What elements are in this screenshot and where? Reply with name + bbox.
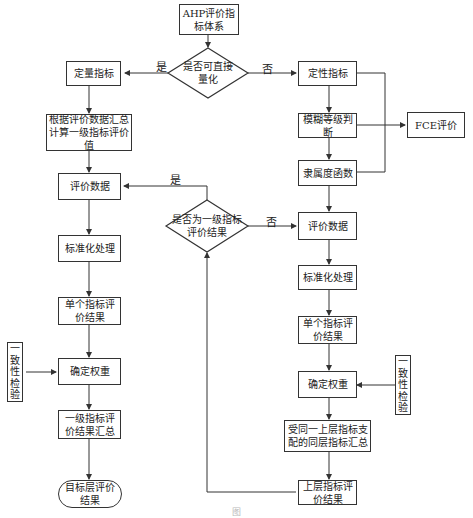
qualitative-node: 定性指标 (298, 61, 357, 86)
right-single-result-node: 单个指标评价结果 (298, 316, 357, 344)
ahp-system-node: AHP评价指标体系 (179, 4, 239, 35)
right-weight-node: 确定权重 (298, 371, 357, 398)
calc-first-level-node: 根据评价数据汇总计算一级指标评价值 (46, 114, 132, 151)
quantifiable-no-label: 否 (262, 60, 273, 76)
right-consistency-node: 一致性检验 (395, 355, 411, 415)
quantitative-node: 定量指标 (66, 61, 121, 86)
left-single-result-node: 单个指标评价结果 (58, 297, 121, 325)
membership-node: 隶属度函数 (298, 160, 357, 186)
upper-result-node: 上层指标评价结果 (298, 480, 357, 505)
fuzzy-grade-node: 模糊等级判断 (298, 113, 357, 138)
first-level-summary-node: 一级指标评价结果汇总 (58, 410, 121, 439)
left-eval-data-node: 评价数据 (58, 173, 121, 200)
first-level-yes-label: 是 (170, 171, 181, 187)
figure-caption: 图 (0, 505, 473, 518)
quantifiable-yes-label: 是 (156, 58, 167, 74)
left-weight-node: 确定权重 (58, 358, 121, 385)
right-eval-data-node: 评价数据 (298, 212, 357, 240)
first-level-no-label: 否 (266, 213, 277, 229)
fce-node: FCE评价 (407, 112, 465, 138)
right-standardize-node: 标准化处理 (298, 265, 357, 290)
decision-first-level-label: 是否为一级指标评价结果 (172, 211, 242, 241)
left-standardize-node: 标准化处理 (58, 235, 121, 262)
left-consistency-node: 一致性检验 (7, 342, 23, 402)
target-result-node: 目标层评价结果 (58, 480, 122, 508)
decision-quantifiable-label: 是否可直接量化 (180, 57, 236, 89)
same-level-summary-node: 受同一上层指标支配的同层指标汇总 (284, 420, 371, 452)
